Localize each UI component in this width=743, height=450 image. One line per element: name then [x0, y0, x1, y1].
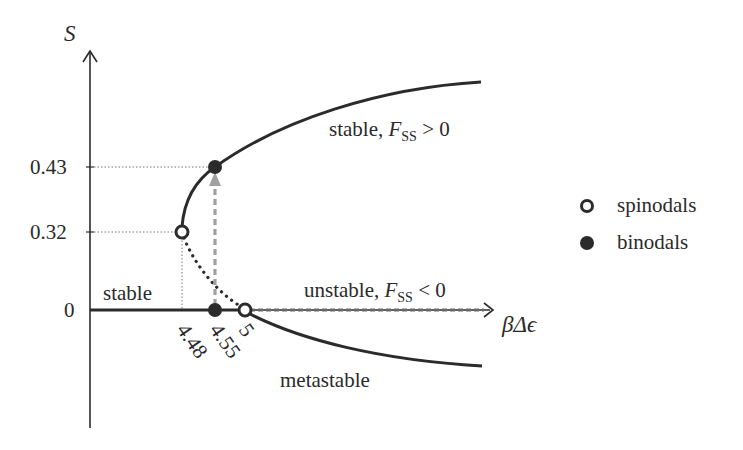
y-tick-043: 0.43: [30, 157, 67, 178]
x-axis-unstable: [250, 303, 493, 317]
legend-spinodal-icon: [582, 201, 593, 212]
unstable-branch-curve: [184, 238, 240, 306]
binodal-marker-upper: [208, 160, 222, 174]
x-axis-label: βΔϵ: [502, 313, 536, 336]
y-tick-032: 0.32: [30, 222, 67, 243]
y-tick-0: 0: [64, 300, 75, 321]
metastable-branch-curve: [248, 313, 482, 366]
region-stable-left: stable: [103, 283, 152, 304]
y-axis: [83, 51, 97, 428]
spinodal-marker-upper: [176, 226, 188, 238]
legend-spinodals-label: spinodals: [617, 195, 696, 216]
binodal-transition-arrow: [209, 172, 221, 305]
stable-branch-curve: [182, 82, 481, 227]
region-unstable: unstable, FSS < 0: [304, 280, 446, 301]
phase-diagram: [0, 0, 743, 450]
y-axis-label: S: [64, 22, 76, 45]
legend-binodal-icon: [580, 236, 594, 250]
region-metastable: metastable: [280, 370, 370, 391]
spinodal-marker-axis: [239, 304, 251, 316]
legend-binodals-label: binodals: [617, 232, 688, 253]
binodal-marker-axis: [208, 303, 222, 317]
region-stable-upper: stable, FSS > 0: [329, 119, 450, 140]
